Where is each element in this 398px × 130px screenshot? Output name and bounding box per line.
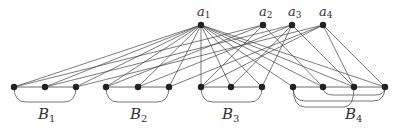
top-node-label: a1 — [197, 4, 211, 20]
edge — [201, 25, 354, 87]
edge — [292, 25, 354, 87]
bottom-node — [198, 84, 204, 90]
bottom-node — [135, 84, 141, 90]
group-label: B3 — [221, 105, 239, 124]
edge — [45, 25, 292, 87]
bipartite-graph-diagram: B1B2B3B4a1a2a3a4 — [0, 0, 398, 130]
edge — [263, 25, 323, 87]
top-node — [289, 22, 295, 28]
bottom-node — [351, 84, 357, 90]
bottom-node — [42, 84, 48, 90]
group-label: B2 — [129, 105, 147, 124]
group-label: B1 — [37, 105, 55, 124]
bottom-node — [290, 84, 296, 90]
edge — [14, 25, 263, 87]
edge — [76, 25, 323, 87]
edge — [323, 25, 354, 87]
edge — [169, 25, 323, 87]
bottom-node — [228, 84, 234, 90]
edge — [262, 25, 292, 87]
edge — [323, 25, 385, 87]
bottom-node — [103, 84, 109, 90]
edge — [14, 25, 201, 87]
top-node — [198, 22, 204, 28]
top-node-label: a2 — [259, 4, 273, 20]
bottom-node — [382, 84, 388, 90]
bottom-node — [320, 84, 326, 90]
edge — [45, 25, 201, 87]
bottom-node — [73, 84, 79, 90]
group-label: B4 — [344, 105, 362, 124]
graph-canvas: B1B2B3B4a1a2a3a4 — [0, 0, 398, 130]
bottom-node — [166, 84, 172, 90]
top-node — [260, 22, 266, 28]
top-node-label: a3 — [288, 4, 302, 20]
edge — [106, 25, 201, 87]
edge — [106, 25, 263, 87]
top-node-label: a4 — [319, 4, 333, 20]
bottom-node — [11, 84, 17, 90]
bottom-node — [259, 84, 265, 90]
top-node — [320, 22, 326, 28]
group-bracket — [293, 87, 385, 101]
